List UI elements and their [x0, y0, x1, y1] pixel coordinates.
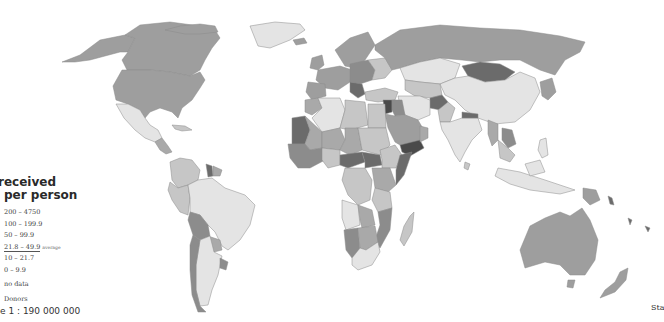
- region-oman: [420, 126, 428, 142]
- region-sri-lanka: [464, 162, 470, 170]
- region-india: [440, 118, 482, 162]
- region-madagascar: [400, 212, 414, 246]
- legend-item-100: 100 – 199.9: [4, 219, 130, 231]
- legend-title-line2: per person: [4, 189, 130, 202]
- legend-item-donors: Donors: [4, 294, 130, 306]
- source-text-fragment: Sta: [651, 303, 664, 312]
- region-korea-japan: [540, 78, 556, 100]
- region-drc: [342, 168, 372, 205]
- legend-item-0: 0 – 9.9: [4, 265, 130, 277]
- legend-title: received per person: [0, 176, 130, 202]
- region-uruguay: [220, 258, 228, 270]
- region-libya: [340, 100, 368, 130]
- region-philippines: [538, 138, 548, 158]
- average-label: average: [42, 245, 60, 250]
- legend-item-10: 10 – 21.7: [4, 253, 130, 265]
- legend-item-50: 50 – 99.9: [4, 230, 130, 242]
- region-caribbean: [172, 125, 192, 131]
- region-borneo: [525, 160, 545, 176]
- legend-item-no-data: no data: [4, 279, 130, 291]
- map-legend: received per person 200 – 4750 100 – 199…: [0, 176, 130, 305]
- region-zambia: [358, 205, 375, 228]
- region-iceland: [293, 38, 307, 45]
- region-suriname: [213, 166, 222, 176]
- region-australia: [520, 208, 598, 275]
- region-nigeria: [322, 148, 340, 168]
- region-uk: [310, 55, 324, 70]
- region-egypt: [368, 104, 386, 128]
- legend-item-200: 200 – 4750: [4, 207, 130, 219]
- region-pacific-islands: [608, 196, 650, 232]
- region-myanmar: [488, 120, 498, 146]
- map-scale: e 1 : 190 000 000: [0, 306, 80, 316]
- region-new-zealand: [600, 268, 628, 298]
- region-car: [340, 152, 365, 168]
- region-tasmania: [567, 280, 575, 288]
- region-tanzania: [372, 188, 392, 212]
- legend-item-average: 21.8 – 49.9average: [4, 242, 130, 254]
- region-balkans: [350, 82, 365, 98]
- legend-items: 200 – 4750 100 – 199.9 50 – 99.9 21.8 – …: [4, 207, 130, 305]
- region-guyana: [206, 164, 213, 177]
- region-central-america: [155, 138, 172, 154]
- region-iberia: [306, 82, 326, 100]
- region-papua-new-guinea: [583, 188, 600, 205]
